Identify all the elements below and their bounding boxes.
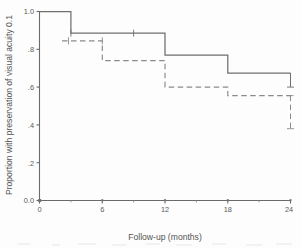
baseline-marker-18 [227,199,229,201]
dashed-curve-group [62,37,294,128]
y-tick-label-0.6: .6 [28,83,34,92]
y-axis-tick-labels: 1.0 .8 .6 .4 .2 0.0 [24,7,34,205]
y-axis-label: Proportion with preservation of visual a… [4,15,14,195]
x-tick-label-0: 0 [37,205,41,214]
y-tick-label-0.8: .8 [28,45,34,54]
dashed-step-curve [62,41,291,96]
baseline-marker-6 [101,199,103,201]
x-tick-label-6: 6 [100,205,104,214]
plot-canvas: 1.0 .8 .6 .4 .2 0.0 0 6 12 18 [0,0,301,248]
y-tick-label-1.0: 1.0 [24,7,34,16]
baseline-marker-0 [38,199,41,202]
x-tick-label-12: 12 [161,205,169,214]
scan-artifact-strip [0,242,301,248]
solid-curve-group [40,12,295,88]
y-tick-label-0.4: .4 [28,121,34,130]
y-tick-label-0.2: .2 [28,159,34,168]
baseline-marker-12 [164,199,166,201]
x-tick-label-24: 24 [285,205,293,214]
solid-step-curve [40,12,291,74]
km-survival-figure: 1.0 .8 .6 .4 .2 0.0 0 6 12 18 [0,0,301,248]
y-tick-label-0.0: 0.0 [24,196,34,205]
x-axis-tick-labels: 0 6 12 18 24 [37,205,293,214]
baseline-marker-24 [290,199,292,201]
x-tick-label-18: 18 [224,205,232,214]
x-axis-label: Follow-up (months) [128,232,202,242]
